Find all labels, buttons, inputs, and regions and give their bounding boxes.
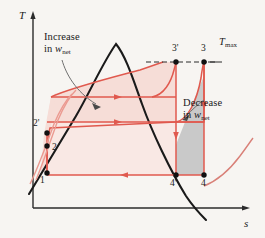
y-axis-arrowhead — [30, 11, 35, 19]
annotation-decrease-in-w-net: Decrease in wnet — [183, 97, 222, 122]
annotation-increase-in-w-net: Increase in wnet — [44, 31, 80, 56]
tmax-label: Tmax — [219, 36, 237, 49]
annotation-decrease-line2: in wnet — [183, 109, 222, 122]
state-point-1 — [44, 170, 49, 175]
state-point-4 — [201, 172, 206, 177]
annotation-increase-line2: in wnet — [44, 43, 80, 56]
state-point-2p — [44, 130, 49, 135]
state-label-2p: 2' — [33, 119, 40, 129]
isobar-right-tail — [204, 138, 253, 186]
x-axis-arrowhead — [242, 205, 250, 210]
state-label-4: 4 — [201, 179, 206, 189]
state-point-2 — [44, 143, 49, 148]
state-point-4p — [173, 172, 178, 177]
state-label-1: 1 — [40, 176, 45, 186]
annotation-decrease-line1: Decrease — [183, 97, 222, 108]
subscript-net: net — [201, 114, 210, 122]
state-point-3p — [173, 59, 178, 64]
state-label-3p: 3' — [172, 44, 179, 54]
state-label-4p: 4' — [170, 179, 177, 189]
x-axis-label: s — [244, 218, 248, 230]
tmax-subscript: max — [225, 41, 237, 49]
ts-diagram-figure: T s Increase in wnet Decrease in wnet Tm… — [0, 0, 265, 238]
state-label-2: 2 — [52, 143, 57, 153]
annotation-increase-line1: Increase — [44, 31, 80, 42]
state-label-3: 3 — [201, 44, 206, 54]
y-axis-label: T — [19, 10, 25, 22]
region-increase-in-w-net-lower — [47, 121, 176, 175]
subscript-net: net — [62, 48, 71, 56]
state-point-3 — [201, 59, 206, 64]
